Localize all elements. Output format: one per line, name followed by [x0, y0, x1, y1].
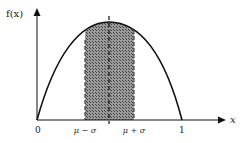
x-axis-label: x — [230, 114, 236, 125]
mu-plus-sigma-label: μ + σ — [123, 126, 146, 135]
y-axis-arrow-icon — [34, 8, 41, 16]
mu-minus-sigma-label: μ − σ — [74, 126, 97, 135]
y-axis-label: f(x) — [6, 8, 23, 19]
one-label: 1 — [179, 125, 185, 135]
x-axis-arrow-icon — [218, 117, 226, 124]
density-diagram: f(x) x 0 μ − σ μ + σ 1 — [0, 0, 245, 143]
origin-label: 0 — [35, 125, 41, 135]
